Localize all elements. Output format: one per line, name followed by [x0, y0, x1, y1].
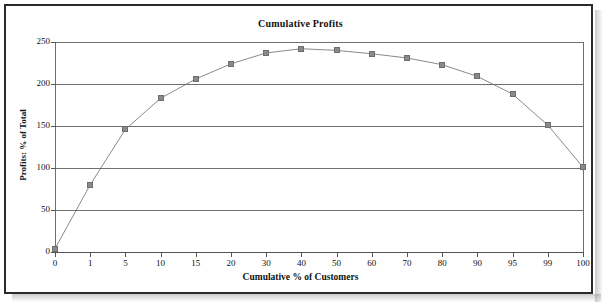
- data-point-marker: [334, 47, 340, 53]
- x-tick-mark: [477, 252, 478, 257]
- gridline: [55, 42, 584, 43]
- x-tick-mark: [548, 252, 549, 257]
- x-tick-label: 20: [216, 258, 246, 268]
- y-tick-label: 50: [10, 204, 50, 214]
- data-point-marker: [580, 164, 586, 170]
- x-tick-mark: [337, 252, 338, 257]
- data-point-marker: [228, 61, 234, 67]
- y-axis-title: Profits: % of Total: [18, 75, 28, 215]
- x-tick-label: 10: [146, 258, 176, 268]
- data-point-marker: [439, 62, 445, 68]
- plot-area: 0501001502002500151015203040506070809095…: [55, 42, 584, 252]
- x-tick-label: 50: [322, 258, 352, 268]
- x-tick-mark: [196, 252, 197, 257]
- data-point-marker: [545, 122, 551, 128]
- x-axis-line: [55, 252, 584, 253]
- data-point-marker: [87, 182, 93, 188]
- data-point-marker: [263, 50, 269, 56]
- data-point-marker: [298, 46, 304, 52]
- x-tick-mark: [407, 252, 408, 257]
- gridline: [55, 126, 584, 127]
- data-point-marker: [369, 51, 375, 57]
- x-tick-label: 80: [427, 258, 457, 268]
- data-point-marker: [158, 95, 164, 101]
- x-tick-mark: [372, 252, 373, 257]
- x-tick-label: 30: [251, 258, 281, 268]
- y-tick-mark: [51, 84, 56, 85]
- gridline: [55, 210, 584, 211]
- series-polyline: [55, 49, 583, 249]
- data-point-marker: [404, 55, 410, 61]
- x-tick-mark: [513, 252, 514, 257]
- data-point-marker: [122, 126, 128, 132]
- x-tick-label: 70: [392, 258, 422, 268]
- y-tick-label: 200: [10, 78, 50, 88]
- x-tick-mark: [90, 252, 91, 257]
- y-tick-mark: [51, 168, 56, 169]
- data-point-marker: [510, 91, 516, 97]
- x-tick-mark: [55, 252, 56, 257]
- gridline: [55, 168, 584, 169]
- x-tick-label: 1: [75, 258, 105, 268]
- chart-frame: Cumulative Profits Profits: % of Total C…: [4, 4, 593, 294]
- y-tick-label: 100: [10, 162, 50, 172]
- x-tick-label: 15: [181, 258, 211, 268]
- y-tick-label: 0: [10, 246, 50, 256]
- chart-title: Cumulative Profits: [6, 18, 595, 29]
- figure-shadow-bottom: [12, 294, 601, 302]
- y-tick-mark: [51, 42, 56, 43]
- data-point-marker: [193, 76, 199, 82]
- x-tick-label: 60: [357, 258, 387, 268]
- series-line: [55, 42, 584, 252]
- x-tick-mark: [301, 252, 302, 257]
- x-axis-title: Cumulative % of Customers: [6, 272, 595, 282]
- y-tick-label: 150: [10, 120, 50, 130]
- gridline: [55, 84, 584, 85]
- x-tick-label: 0: [40, 258, 70, 268]
- x-tick-label: 99: [533, 258, 563, 268]
- y-tick-mark: [51, 210, 56, 211]
- data-point-marker: [474, 73, 480, 79]
- x-tick-mark: [231, 252, 232, 257]
- x-tick-mark: [125, 252, 126, 257]
- x-tick-label: 95: [498, 258, 528, 268]
- x-tick-label: 90: [462, 258, 492, 268]
- x-tick-mark: [161, 252, 162, 257]
- x-tick-label: 100: [568, 258, 598, 268]
- x-tick-mark: [266, 252, 267, 257]
- x-tick-mark: [583, 252, 584, 257]
- x-tick-label: 40: [286, 258, 316, 268]
- chart-figure: Cumulative Profits Profits: % of Total C…: [0, 0, 605, 307]
- y-tick-label: 250: [10, 36, 50, 46]
- data-point-marker: [52, 246, 58, 252]
- x-tick-mark: [442, 252, 443, 257]
- x-tick-label: 5: [110, 258, 140, 268]
- y-tick-mark: [51, 126, 56, 127]
